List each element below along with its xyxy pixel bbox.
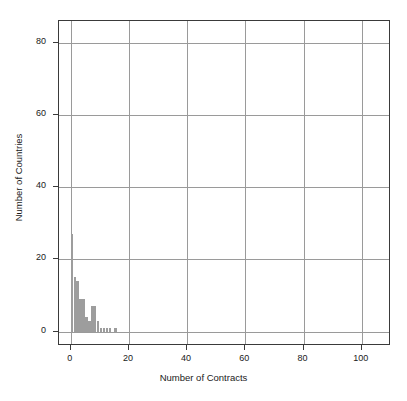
y-tick-label: 20	[16, 252, 46, 262]
y-tick-mark-60	[53, 114, 58, 115]
x-tick-label: 40	[166, 353, 206, 363]
x-tick-label: 0	[50, 353, 90, 363]
histogram-bars	[59, 21, 389, 344]
y-axis-title: Number of Countries	[13, 108, 24, 248]
plot-area	[58, 20, 390, 345]
x-tick-mark-80	[303, 345, 304, 350]
y-tick-label: 0	[16, 325, 46, 335]
y-tick-mark-80	[53, 42, 58, 43]
x-tick-label: 60	[224, 353, 264, 363]
x-axis-title: Number of Contracts	[0, 372, 407, 383]
x-tick-mark-100	[361, 345, 362, 350]
y-tick-label: 80	[16, 36, 46, 46]
histogram-figure: 020406080100 020406080 Number of Contrac…	[0, 0, 407, 401]
y-tick-mark-40	[53, 186, 58, 187]
histogram-bar	[109, 328, 112, 332]
x-tick-mark-0	[70, 345, 71, 350]
x-tick-mark-60	[244, 345, 245, 350]
y-tick-mark-20	[53, 258, 58, 259]
x-tick-label: 80	[283, 353, 323, 363]
histogram-bar	[114, 328, 117, 332]
x-tick-label: 20	[108, 353, 148, 363]
x-tick-mark-20	[128, 345, 129, 350]
x-tick-mark-40	[186, 345, 187, 350]
x-tick-label: 100	[341, 353, 381, 363]
y-tick-mark-0	[53, 331, 58, 332]
